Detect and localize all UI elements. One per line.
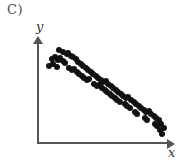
data-point [134,111,140,117]
y-axis-arrow-icon [33,36,43,44]
x-axis-line [37,142,170,144]
data-point [54,64,60,70]
x-axis-label: x [168,145,175,160]
y-axis-label: y [36,19,43,34]
data-point [144,117,150,123]
plot-area: y x [0,0,184,162]
y-axis-line [37,42,39,144]
scatter-plot-figure: C) y x [0,0,184,162]
data-point [159,131,165,137]
